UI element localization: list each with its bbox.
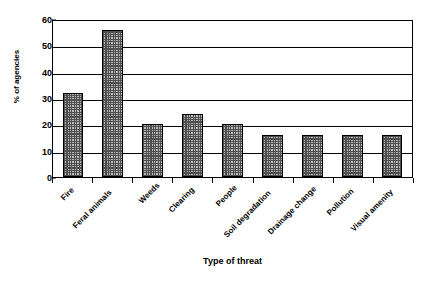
y-tick-label: 10: [8, 147, 52, 156]
x-tick-label: Pollution: [325, 187, 356, 218]
bar-slot: [213, 21, 253, 177]
bar-slot: [372, 21, 412, 177]
y-tick-label: 60: [8, 16, 52, 25]
plot-area: [52, 20, 413, 178]
x-tick-mark: [413, 178, 414, 183]
bar-slot: [93, 21, 133, 177]
x-tick-label: Fire: [59, 185, 76, 202]
bar[interactable]: [182, 114, 203, 177]
bar-chart: % of agencies 0102030405060 FireFeral an…: [0, 0, 437, 286]
bar[interactable]: [222, 124, 243, 177]
bar-slot: [332, 21, 372, 177]
x-axis-tick-labels: FireFeral animalsWeedsClearingPeopleSoil…: [52, 183, 413, 245]
bar-slot: [133, 21, 173, 177]
bar[interactable]: [342, 135, 363, 177]
bar[interactable]: [382, 135, 403, 177]
x-tick-label: Weeds: [137, 181, 161, 205]
y-tick-label: 30: [8, 95, 52, 104]
bar-slot: [53, 21, 93, 177]
x-tick-label: Drainage change: [266, 185, 318, 237]
bar[interactable]: [142, 124, 163, 177]
x-axis-title: Type of threat: [52, 256, 413, 266]
bars-container: [53, 21, 412, 177]
y-tick-label: 20: [8, 121, 52, 130]
y-tick-label: 0: [8, 174, 52, 183]
bar[interactable]: [102, 30, 123, 177]
bar[interactable]: [262, 135, 283, 177]
x-tick-label: Visual amenity: [349, 188, 395, 234]
bar-slot: [292, 21, 332, 177]
y-axis-ticks: 0102030405060: [0, 20, 52, 178]
x-tick-label: People: [214, 183, 239, 208]
x-tick-label: Feral animals: [71, 188, 114, 231]
y-tick-label: 40: [8, 68, 52, 77]
x-tick-label: Clearing: [167, 186, 196, 215]
bar[interactable]: [302, 135, 323, 177]
y-tick-label: 50: [8, 42, 52, 51]
bar-slot: [252, 21, 292, 177]
bar-slot: [173, 21, 213, 177]
bar[interactable]: [63, 93, 84, 177]
